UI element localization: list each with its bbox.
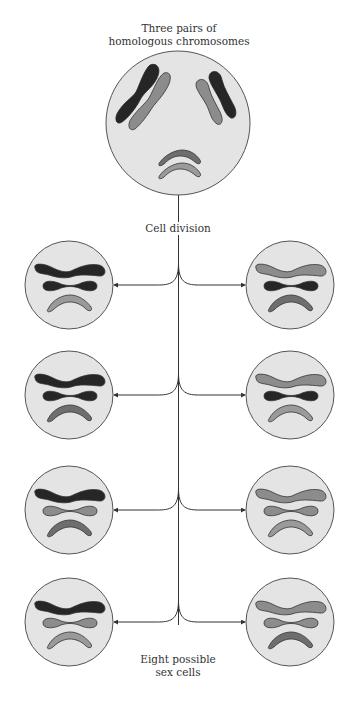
cell-membrane	[25, 466, 113, 554]
cell-membrane	[25, 578, 113, 666]
cell-membrane	[246, 578, 334, 666]
parent-cell	[106, 51, 250, 195]
cell-membrane	[246, 466, 334, 554]
branch-arrow-row4-left	[114, 600, 179, 622]
daughter-cell-row2-left	[25, 351, 113, 439]
cell-membrane	[25, 241, 113, 329]
branch-arrow-row3-right	[179, 488, 246, 510]
meiosis-diagram	[0, 0, 349, 704]
result-line-1: Eight possible	[118, 653, 238, 666]
result-line-2: sex cells	[118, 666, 238, 679]
cell-membrane	[25, 351, 113, 439]
daughter-cell-row3-right	[246, 466, 334, 554]
branch-arrow-row1-right	[179, 263, 246, 285]
branch-arrow-row2-left	[114, 373, 179, 395]
parent-cell-membrane	[106, 51, 250, 195]
daughter-cell-row4-left	[25, 578, 113, 666]
cell-division-label: Cell division	[128, 222, 228, 235]
division-branches	[114, 263, 245, 622]
daughter-cells	[25, 241, 334, 666]
branch-arrow-row3-left	[114, 488, 179, 510]
cell-membrane	[246, 351, 334, 439]
daughter-cell-row1-left	[25, 241, 113, 329]
branch-arrow-row1-left	[114, 263, 179, 285]
daughter-cell-row4-right	[246, 578, 334, 666]
result-label: Eight possible sex cells	[118, 653, 238, 679]
branch-arrow-row4-right	[179, 600, 246, 622]
daughter-cell-row3-left	[25, 466, 113, 554]
daughter-cell-row1-right	[246, 241, 334, 329]
branch-arrow-row2-right	[179, 373, 246, 395]
cell-membrane	[246, 241, 334, 329]
daughter-cell-row2-right	[246, 351, 334, 439]
